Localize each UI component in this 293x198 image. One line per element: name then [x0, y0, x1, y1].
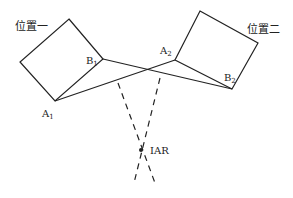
label-b2: B2	[224, 72, 236, 85]
bisector-b1b2	[134, 78, 160, 183]
label-a2: A2	[159, 45, 172, 58]
iar-point	[139, 148, 143, 152]
line-b1-b2	[103, 59, 232, 89]
square-position-2	[175, 11, 258, 89]
iar-diagram: 位置一 位置二 B1 A1 A2 B2 IAR	[0, 0, 293, 198]
label-position-2: 位置二	[247, 22, 280, 36]
label-b1: B1	[86, 55, 98, 68]
line-a1-a2	[55, 60, 175, 101]
label-iar: IAR	[150, 145, 169, 156]
bisector-a1a2	[118, 83, 155, 183]
label-a1: A1	[41, 108, 54, 121]
label-position-1: 位置一	[15, 19, 48, 33]
